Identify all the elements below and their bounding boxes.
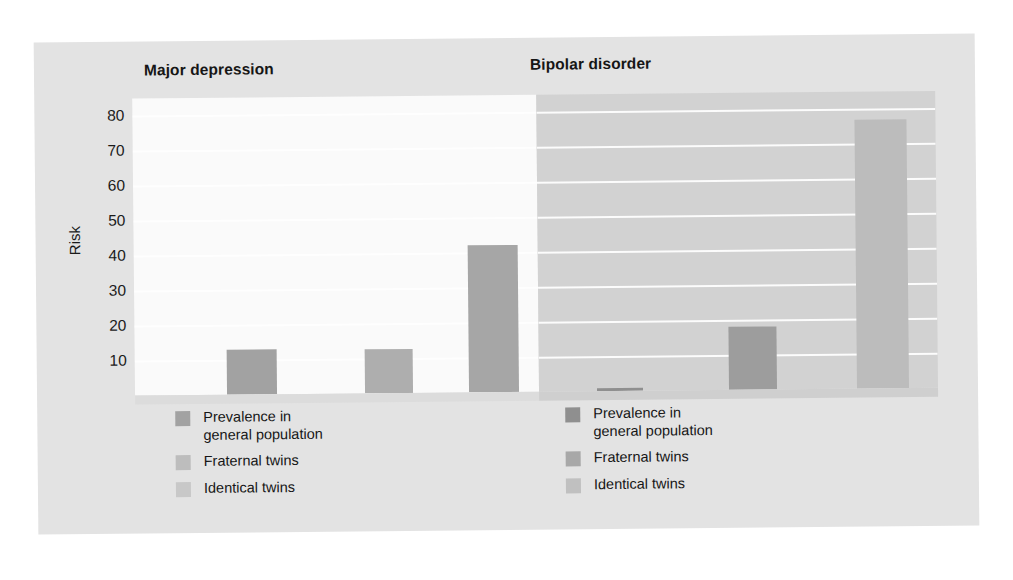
legend-item: Identical twins [176, 479, 323, 498]
legend-swatch-icon [176, 482, 191, 497]
legend-item: Identical twins [566, 475, 713, 494]
legend-item: Prevalence in general population [565, 404, 713, 441]
bar-bipolar-disorder-series-2 [854, 119, 909, 389]
legend-label: Fraternal twins [204, 452, 299, 471]
plot-area-major-depression [132, 95, 539, 396]
legend-bipolar-disorder: Prevalence in general populationFraterna… [565, 404, 713, 494]
legend-swatch-icon [175, 411, 190, 426]
y-tick-label-50: 50 [85, 213, 125, 229]
plot-area-bipolar-disorder [536, 91, 938, 392]
bar-major-depression-series-0 [227, 349, 277, 395]
legend-label: Prevalence in general population [593, 404, 713, 441]
bar-major-depression-series-1 [365, 349, 413, 393]
chart-area: Major depression Bipolar disorder Risk 8… [34, 33, 980, 534]
legend-swatch-icon [176, 455, 191, 470]
gridline-80 [132, 112, 536, 118]
gridline-70 [133, 147, 537, 153]
bar-bipolar-disorder-series-1 [728, 327, 777, 390]
gridline-80 [536, 108, 935, 114]
y-axis-ticks: 8070605040302010 [62, 42, 129, 535]
gridline-50 [133, 217, 537, 223]
y-tick-label-30: 30 [86, 283, 126, 299]
legend-label: Prevalence in general population [203, 408, 323, 445]
legend-label: Identical twins [594, 475, 685, 494]
legend-item: Fraternal twins [176, 452, 323, 471]
panel-title-bipolar-disorder: Bipolar disorder [530, 55, 651, 74]
gridline-60 [133, 182, 537, 188]
legend-swatch-icon [565, 407, 580, 422]
figure-panel: Major depression Bipolar disorder Risk 8… [34, 33, 980, 534]
legend-swatch-icon [566, 452, 581, 467]
y-tick-label-10: 10 [87, 353, 127, 369]
legend-label: Identical twins [204, 479, 295, 498]
y-tick-label-70: 70 [85, 143, 125, 159]
legend-major-depression: Prevalence in general populationFraterna… [175, 408, 323, 498]
y-tick-label-40: 40 [86, 248, 126, 264]
legend-label: Fraternal twins [594, 449, 689, 468]
legend-swatch-icon [566, 478, 581, 493]
legend-item: Fraternal twins [566, 448, 713, 467]
y-tick-label-80: 80 [84, 108, 124, 124]
scanned-page: Major depression Bipolar disorder Risk 8… [0, 0, 1013, 580]
panel-title-major-depression: Major depression [144, 60, 274, 79]
bar-major-depression-series-2 [468, 245, 519, 392]
y-tick-label-20: 20 [86, 318, 126, 334]
y-tick-label-60: 60 [85, 178, 125, 194]
legend-item: Prevalence in general population [175, 408, 323, 445]
